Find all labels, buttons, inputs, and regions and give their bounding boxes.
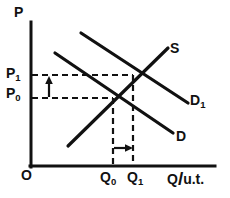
curve-label-demand-text: D (176, 128, 186, 144)
curve-label-demand: D (176, 129, 186, 143)
y-tick-label-p0: P0 (6, 86, 21, 100)
y-tick-label-p0-main: P (6, 85, 15, 101)
x-tick-label-q0-main: Q (100, 169, 111, 185)
y-tick-label-p1-sub: 1 (15, 72, 20, 83)
x-tick-label-q0-sub: 0 (111, 176, 116, 187)
x-axis-label-prefix: Q (167, 171, 178, 187)
y-axis-label-text: P (14, 4, 23, 20)
y-tick-label-p1-main: P (6, 65, 15, 81)
curve-label-demand-shifted: D1 (190, 93, 205, 107)
curves-group (55, 33, 188, 146)
x-tick-label-q1: Q1 (127, 170, 143, 184)
quantity-increase-arrow-head (125, 144, 133, 152)
y-tick-label-p0-sub: 0 (15, 92, 20, 103)
x-axis-label: Q/u.t. (167, 168, 204, 187)
y-tick-label-p1: P1 (6, 66, 21, 80)
price-increase-arrow-head (45, 76, 53, 84)
x-tick-label-q1-sub: 1 (138, 176, 143, 187)
curve-label-demand-shifted-main: D (190, 92, 200, 108)
y-axis-label: P (14, 5, 23, 19)
x-axis-label-slash: / (178, 168, 183, 189)
annotation-arrows-group (45, 76, 133, 152)
x-tick-label-q0: Q0 (100, 170, 116, 184)
curve-label-demand-shifted-sub: 1 (200, 99, 205, 110)
curve-label-supply-text: S (170, 40, 179, 56)
x-axis-label-suffix: u.t. (183, 171, 204, 187)
guide-lines-group (32, 75, 133, 166)
supply-demand-chart: P P1 P0 O Q0 Q1 Q/u.t. S D1 D (0, 0, 230, 198)
curve-label-supply: S (170, 41, 179, 55)
origin-label: O (21, 168, 32, 182)
x-tick-label-q1-main: Q (127, 169, 138, 185)
origin-label-text: O (21, 167, 32, 183)
